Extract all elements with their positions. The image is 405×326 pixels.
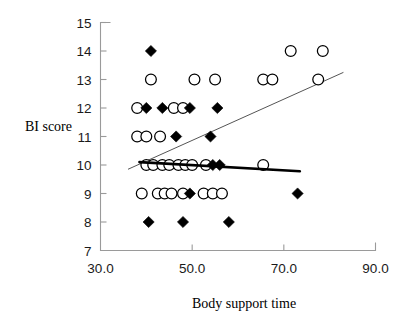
y-tick-label: 8 <box>84 215 92 230</box>
data-point-filled-diamond <box>171 131 182 142</box>
y-tick-label: 15 <box>76 16 91 31</box>
trend-lines <box>128 72 343 169</box>
data-point-filled-diamond <box>214 159 225 170</box>
data-point-filled-diamond <box>157 102 168 113</box>
data-point-filled-diamond <box>205 131 216 142</box>
x-axis-title: Body support time <box>192 296 296 311</box>
data-point-open-circle <box>317 46 328 57</box>
data-point-filled-diamond <box>143 216 154 227</box>
x-tick-marks <box>192 245 284 251</box>
y-tick-label: 13 <box>76 73 91 88</box>
y-tick-marks <box>101 23 107 223</box>
y-tick-label: 9 <box>84 187 92 202</box>
data-point-open-circle <box>155 131 166 142</box>
x-tick-label: 70.0 <box>271 261 297 276</box>
chart-canvas: 789101112131415 30.050.070.090.0 BI scor… <box>0 0 405 326</box>
data-point-filled-diamond <box>141 102 152 113</box>
data-point-open-circle <box>166 188 177 199</box>
data-point-open-circle <box>313 74 324 85</box>
data-point-open-circle <box>267 74 278 85</box>
data-point-filled-diamond <box>177 216 188 227</box>
y-tick-label: 12 <box>76 101 91 116</box>
x-tick-label: 30.0 <box>87 261 113 276</box>
data-point-open-circle <box>189 74 200 85</box>
y-tick-label: 10 <box>76 158 91 173</box>
data-point-open-circle <box>285 46 296 57</box>
rising-thin-trend-line <box>128 72 343 169</box>
data-point-open-circle <box>141 131 152 142</box>
scatter-chart: 789101112131415 30.050.070.090.0 BI scor… <box>0 0 405 326</box>
x-tick-label: 50.0 <box>179 261 205 276</box>
y-tick-label: 11 <box>77 130 91 145</box>
y-axis-title: BI score <box>25 119 72 134</box>
data-point-open-circle <box>146 74 157 85</box>
data-point-filled-diamond <box>212 102 223 113</box>
y-tick-label: 14 <box>76 44 92 59</box>
data-point-open-circle <box>217 188 228 199</box>
data-point-filled-diamond <box>223 216 234 227</box>
data-point-open-circle <box>136 188 147 199</box>
data-markers <box>132 45 328 227</box>
x-tick-label: 90.0 <box>362 261 388 276</box>
data-point-filled-diamond <box>145 45 156 56</box>
data-point-open-circle <box>210 74 221 85</box>
x-tick-labels: 30.050.070.090.0 <box>87 261 388 276</box>
y-tick-label: 7 <box>84 244 92 259</box>
y-tick-labels: 789101112131415 <box>76 16 92 259</box>
data-point-filled-diamond <box>292 188 303 199</box>
